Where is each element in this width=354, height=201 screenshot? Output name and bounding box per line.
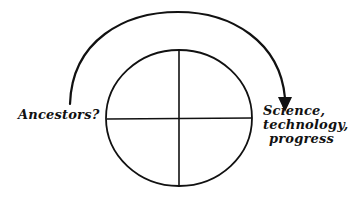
label-ancestors: Ancestors? [18,108,100,122]
diagram-canvas [0,0,354,201]
arc-arrow-path [70,12,285,104]
label-science-technology-progress: Science, technology, progress [263,104,353,146]
label-line-1: Science, [263,104,353,118]
label-line-3: progress [263,132,353,146]
circle-horizontal-divider [107,118,252,119]
label-line-2: technology, [263,118,353,132]
